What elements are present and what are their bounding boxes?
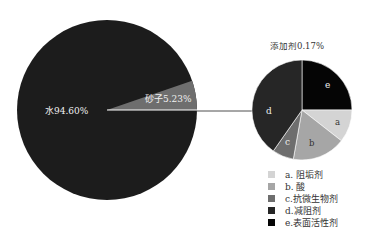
legend: a. 阻垢剂 b. 酸 c.抗微生物剂 d.减阻剂 e.表面活性剂: [268, 168, 338, 228]
water-label: 水94.60%: [45, 105, 89, 116]
legend-swatch-a: [268, 171, 275, 178]
slice-b-letter: b: [309, 138, 315, 148]
legend-label-e: e.表面活性剂: [285, 216, 338, 229]
legend-item-d: d.减阻剂: [268, 204, 338, 216]
slice-c-letter: c: [285, 137, 290, 147]
legend-swatch-e: [268, 219, 275, 226]
big-pie: 水94.60% 砂子5.23%: [17, 20, 197, 200]
small-pie-title: 添加剂0.17%: [270, 41, 324, 51]
slice-a-letter: a: [335, 117, 340, 127]
sand-label: 砂子5.23%: [145, 93, 192, 104]
legend-swatch-b: [268, 183, 275, 190]
legend-item-a: a. 阻垢剂: [268, 168, 338, 180]
slice-e-letter: e: [325, 80, 330, 90]
legend-item-b: b. 酸: [268, 180, 338, 192]
slice-d-letter: d: [266, 106, 272, 116]
legend-item-c: c.抗微生物剂: [268, 192, 338, 204]
legend-item-e: e.表面活性剂: [268, 216, 338, 228]
legend-swatch-d: [268, 207, 275, 214]
small-pie: 添加剂0.17% e a b c d: [252, 41, 352, 160]
legend-swatch-c: [268, 195, 275, 202]
